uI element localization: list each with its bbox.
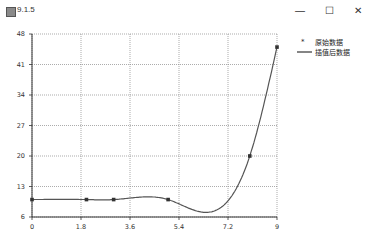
chart: 01.83.65.47.296132027344148 * 原始数据 插值后数据 bbox=[0, 0, 372, 246]
grid bbox=[32, 34, 277, 217]
x-tick-label: 1.8 bbox=[76, 223, 86, 231]
legend-label-raw: 原始数据 bbox=[315, 38, 343, 47]
data-point-marker bbox=[112, 198, 116, 202]
data-point-marker bbox=[85, 198, 89, 202]
data-point-marker bbox=[166, 198, 170, 202]
x-tick-label: 7.2 bbox=[223, 223, 233, 231]
y-tick-label: 48 bbox=[17, 30, 25, 38]
legend-label-interp: 插值后数据 bbox=[315, 48, 350, 57]
x-tick-label: 5.4 bbox=[174, 223, 184, 231]
x-tick-label: 9 bbox=[275, 223, 279, 231]
x-tick-label: 3.6 bbox=[125, 223, 135, 231]
y-tick-label: 27 bbox=[17, 122, 25, 130]
y-tick-label: 13 bbox=[17, 183, 25, 191]
tick-labels: 01.83.65.47.296132027344148 bbox=[17, 30, 279, 231]
legend: * 原始数据 插值后数据 bbox=[297, 38, 350, 57]
axes bbox=[29, 34, 277, 220]
legend-marker-raw: * bbox=[301, 38, 305, 46]
x-tick-label: 0 bbox=[30, 223, 34, 231]
y-tick-label: 34 bbox=[17, 91, 25, 99]
y-tick-label: 6 bbox=[21, 213, 25, 221]
interpolated-curve bbox=[32, 47, 277, 212]
y-tick-label: 20 bbox=[17, 152, 25, 160]
data-point-marker bbox=[30, 198, 34, 202]
data-point-marker bbox=[248, 154, 252, 158]
data-point-marker bbox=[275, 45, 279, 49]
y-tick-label: 41 bbox=[17, 61, 25, 69]
